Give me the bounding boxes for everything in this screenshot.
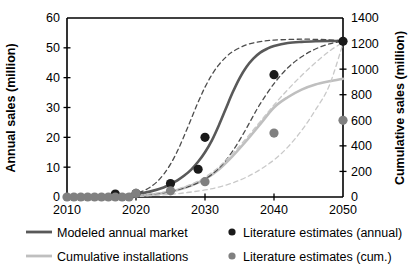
- x-tick-label: 2050: [329, 203, 357, 217]
- y-tick-label-left: 30: [46, 101, 60, 115]
- y-tick-label-right: 400: [351, 139, 372, 153]
- y-tick-label-left: 40: [46, 71, 60, 85]
- legend-label: Cumulative installations: [57, 250, 188, 264]
- y-tick-label-right: 1400: [351, 11, 379, 25]
- legend-label: Literature estimates (cum.): [243, 250, 392, 264]
- legend-dot-swatch: [228, 228, 235, 235]
- x-tick-label: 2010: [53, 203, 81, 217]
- legend-dot-swatch: [228, 252, 235, 259]
- chart-figure: 0102030405060020040060080010001200140020…: [0, 0, 416, 273]
- x-tick-label: 2030: [191, 203, 219, 217]
- data-point: [194, 165, 203, 174]
- data-point: [269, 70, 278, 79]
- data-point: [338, 37, 347, 46]
- data-point: [166, 186, 175, 195]
- legend-item-literature-estimates-cum[interactable]: Literature estimates (cum.): [228, 250, 391, 264]
- x-tick-label: 2020: [122, 203, 150, 217]
- y-tick-label-right: 800: [351, 88, 372, 102]
- y-tick-label-left: 50: [46, 41, 60, 55]
- chart-svg: 0102030405060020040060080010001200140020…: [0, 0, 416, 273]
- data-point: [131, 189, 140, 198]
- legend-label: Modeled annual market: [57, 226, 188, 240]
- data-point: [269, 128, 278, 137]
- y-tick-label-right: 200: [351, 165, 372, 179]
- y-tick-label-left: 60: [46, 11, 60, 25]
- y-tick-label-right: 1000: [351, 63, 379, 77]
- y-tick-label-left: 20: [46, 131, 60, 145]
- y-axis-title-left: Annual sales (million): [4, 43, 18, 172]
- y-tick-label-right: 600: [351, 114, 372, 128]
- data-point: [200, 177, 209, 186]
- data-point: [200, 133, 209, 142]
- legend-label: Literature estimates (annual): [243, 226, 402, 240]
- data-point: [338, 116, 347, 125]
- legend-item-literature-estimates-annual[interactable]: Literature estimates (annual): [228, 226, 402, 240]
- x-tick-label: 2040: [260, 203, 288, 217]
- y-tick-label-right: 1200: [351, 37, 379, 51]
- y-tick-label-left: 10: [46, 161, 60, 175]
- y-axis-title-right: Cumulative sales (million): [393, 31, 407, 185]
